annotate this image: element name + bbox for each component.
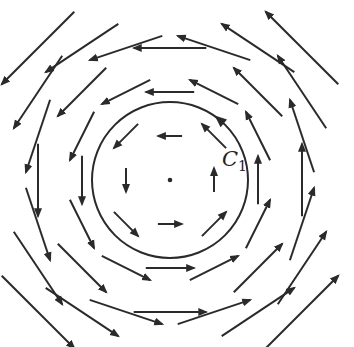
vector-arrow bbox=[58, 244, 106, 292]
vector-arrow bbox=[2, 12, 75, 85]
vector-arrow bbox=[190, 80, 238, 104]
vector-arrow bbox=[222, 288, 295, 336]
vector-arrow bbox=[2, 276, 75, 347]
vector-arrow bbox=[58, 68, 106, 116]
vector-field-diagram: C1 bbox=[0, 0, 354, 347]
origin-point bbox=[168, 178, 173, 183]
vector-arrow bbox=[70, 112, 94, 160]
vector-arrow bbox=[14, 56, 62, 129]
vector-arrow bbox=[246, 112, 270, 160]
vector-arrow bbox=[114, 124, 138, 148]
vector-arrow bbox=[190, 256, 238, 280]
vector-arrow bbox=[102, 256, 150, 280]
vector-arrow bbox=[202, 212, 226, 236]
vector-arrow bbox=[102, 80, 150, 104]
vector-arrow bbox=[114, 212, 138, 236]
vector-arrow bbox=[202, 124, 226, 148]
vector-arrow bbox=[266, 12, 339, 85]
vector-arrow bbox=[246, 200, 270, 248]
vector-arrow bbox=[70, 200, 94, 248]
vector-arrow bbox=[266, 276, 339, 347]
vector-arrow bbox=[234, 68, 282, 116]
vector-arrow bbox=[46, 288, 119, 336]
vector-arrow bbox=[234, 244, 282, 292]
vector-arrow bbox=[278, 56, 326, 129]
